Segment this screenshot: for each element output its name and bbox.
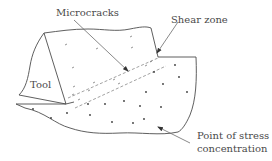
shear-zone-upper-line — [68, 58, 158, 98]
stress-label-line2: concentration — [197, 143, 267, 154]
shear-zone-lower-line — [75, 66, 166, 108]
shear-zone-arrow — [157, 22, 178, 53]
workpiece-left-lower — [16, 104, 25, 108]
tool-tip-edge — [66, 102, 74, 104]
stress-point-arrow — [158, 127, 190, 143]
tool-label: Tool — [30, 79, 51, 90]
stress-points — [32, 64, 188, 124]
microcracks-label: Microcracks — [56, 7, 119, 18]
shear-zone-label: Shear zone — [171, 14, 228, 25]
cutting-diagram: Microcracks Shear zone Tool Point of str… — [0, 0, 272, 161]
tool-shape — [19, 33, 66, 104]
stress-label-line1: Point of stress — [197, 130, 269, 141]
microcracks-arrow — [74, 20, 128, 71]
microcrack-marks — [65, 36, 152, 100]
